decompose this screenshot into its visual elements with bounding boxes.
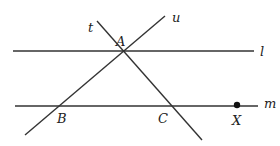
labels-layer: lmtuABCX [56, 10, 276, 128]
point-label-A: A [115, 34, 125, 49]
lines-layer [13, 16, 258, 140]
line-label-l: l [260, 44, 264, 59]
line-t [97, 21, 202, 140]
line-label-m: m [264, 96, 276, 111]
line-u [25, 16, 165, 135]
points-layer [234, 102, 240, 108]
point-dot-X [234, 102, 240, 108]
geometry-diagram: lmtuABCX [0, 0, 280, 146]
point-label-C: C [158, 111, 168, 126]
line-label-u: u [172, 10, 180, 25]
point-label-X: X [231, 113, 242, 128]
line-label-t: t [88, 20, 94, 35]
point-label-B: B [56, 111, 67, 126]
